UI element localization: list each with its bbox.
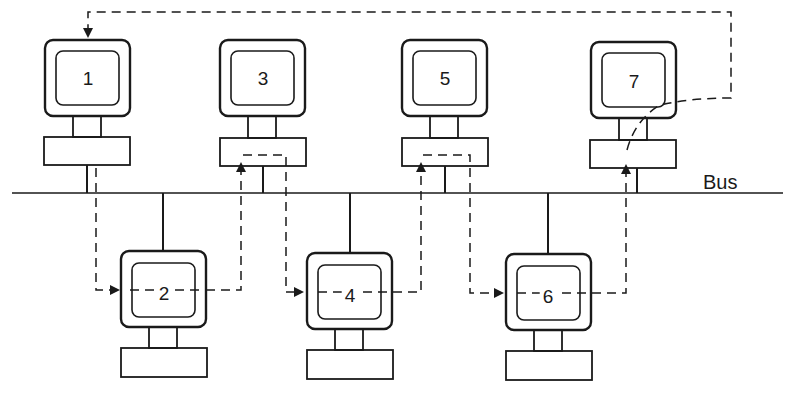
token-path-5-to-6 — [423, 155, 502, 293]
node-label-1: 1 — [83, 69, 94, 88]
node-label-6: 6 — [540, 287, 557, 306]
computer-node-5 — [402, 40, 488, 193]
computer-node-7 — [590, 42, 676, 193]
token-path-2-to-3 — [206, 164, 241, 290]
node-label-2: 2 — [156, 284, 173, 303]
token-path-3-to-4 — [243, 155, 302, 292]
computer-node-3 — [220, 40, 306, 193]
token-path-1-to-2 — [96, 168, 118, 290]
diagram-canvas — [0, 0, 787, 393]
node-label-4: 4 — [342, 286, 359, 305]
token-path-6-to-7 — [592, 166, 626, 293]
node-label-7: 7 — [629, 72, 640, 91]
bus-label: Bus — [703, 172, 737, 192]
token-path-4-to-5 — [393, 164, 421, 292]
node-label-3: 3 — [258, 69, 269, 88]
computer-node-1 — [44, 40, 130, 193]
token-bus-diagram: 1 2 3 4 5 6 7 Bus — [0, 0, 787, 393]
node-label-5: 5 — [440, 69, 451, 88]
